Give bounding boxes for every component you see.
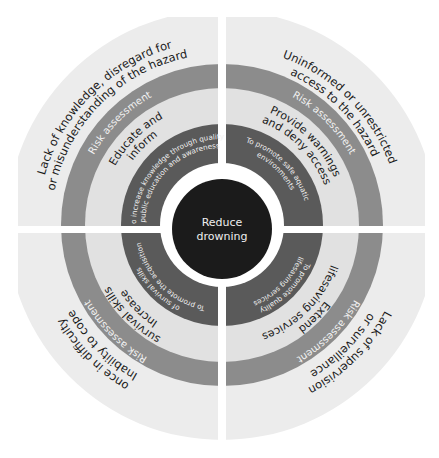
center-label-line2: drowning	[197, 230, 248, 243]
center-circle	[172, 179, 272, 279]
center-label-line1: Reduce	[202, 216, 243, 229]
drowning-prevention-diagram: Reduce drowning Lack of knowledge, disre…	[0, 0, 439, 458]
